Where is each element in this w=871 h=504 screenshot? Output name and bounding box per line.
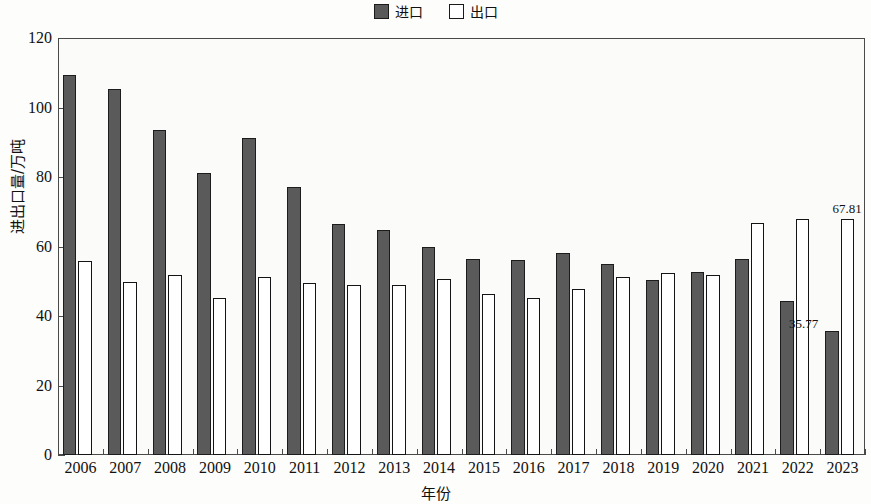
x-tick-label: 2007: [101, 460, 149, 476]
y-tick-label: 40: [6, 308, 52, 324]
x-tick-mark: [372, 449, 373, 455]
bar-export: [347, 285, 361, 455]
bar-export: [213, 298, 227, 455]
bar-import: [691, 272, 705, 455]
x-tick-mark: [551, 449, 552, 455]
bar-import: [377, 230, 391, 455]
bar-import: [287, 187, 301, 455]
x-tick-mark: [865, 449, 866, 455]
bar-value-label: 67.81: [833, 202, 862, 215]
bar-import: [63, 75, 77, 455]
bar-export: [168, 275, 182, 455]
x-tick-label: 2015: [460, 460, 508, 476]
filled-square-icon: [374, 4, 389, 19]
bar-import: [422, 247, 436, 455]
x-tick-mark: [775, 449, 776, 455]
bar-import: [108, 89, 122, 455]
x-tick-label: 2006: [56, 460, 104, 476]
bar-export: [258, 277, 272, 455]
bar-export: [841, 219, 855, 455]
legend-entry-import: 进口: [374, 4, 423, 19]
x-tick-mark: [58, 449, 59, 455]
x-tick-label: 2012: [325, 460, 373, 476]
x-tick-label: 2021: [729, 460, 777, 476]
x-tick-label: 2023: [819, 460, 867, 476]
bar-export: [392, 285, 406, 455]
x-tick-label: 2008: [146, 460, 194, 476]
x-tick-label: 2020: [684, 460, 732, 476]
x-tick-mark: [103, 449, 104, 455]
x-tick-mark: [148, 449, 149, 455]
x-tick-mark: [462, 449, 463, 455]
bar-export: [706, 275, 720, 455]
x-tick-mark: [596, 449, 597, 455]
bar-export: [437, 279, 451, 455]
x-tick-label: 2010: [236, 460, 284, 476]
y-tick-label: 0: [6, 447, 52, 463]
bar-export: [482, 294, 496, 455]
y-tick-label: 20: [6, 378, 52, 394]
hollow-square-icon: [449, 4, 464, 19]
bar-chart: 进口 出口 进出口量/万吨 年份 020406080100120 2006200…: [0, 0, 871, 504]
bar-export: [572, 289, 586, 455]
bar-export: [78, 261, 92, 455]
y-tick-label: 100: [6, 100, 52, 116]
x-tick-mark: [193, 449, 194, 455]
x-tick-mark: [282, 449, 283, 455]
bar-import: [601, 264, 615, 455]
x-tick-label: 2018: [594, 460, 642, 476]
bar-export: [527, 298, 541, 455]
y-tick-label: 120: [6, 30, 52, 46]
x-tick-mark: [820, 449, 821, 455]
bar-import: [153, 130, 167, 455]
bar-export: [616, 277, 630, 455]
x-tick-label: 2013: [370, 460, 418, 476]
bar-export: [123, 282, 137, 455]
bar-import: [735, 259, 749, 455]
bar-export: [661, 273, 675, 455]
bar-import: [332, 224, 346, 455]
x-tick-mark: [686, 449, 687, 455]
y-tick-mark: [58, 455, 65, 456]
bar-export: [796, 219, 810, 455]
x-tick-label: 2017: [550, 460, 598, 476]
bar-import: [511, 260, 525, 455]
bar-import: [466, 259, 480, 455]
bar-import: [242, 138, 256, 455]
bar-value-label: 35.77: [789, 317, 818, 330]
chart-legend: 进口 出口: [0, 4, 871, 19]
y-tick-label: 80: [6, 169, 52, 185]
legend-label-export: 出口: [470, 5, 498, 19]
x-tick-mark: [417, 449, 418, 455]
bar-import: [825, 331, 839, 455]
x-tick-mark: [731, 449, 732, 455]
x-tick-label: 2014: [415, 460, 463, 476]
x-tick-label: 2009: [191, 460, 239, 476]
bar-export: [751, 223, 765, 455]
x-tick-label: 2011: [281, 460, 329, 476]
x-tick-mark: [237, 449, 238, 455]
x-tick-mark: [327, 449, 328, 455]
x-tick-mark: [641, 449, 642, 455]
legend-label-import: 进口: [395, 5, 423, 19]
bar-export: [303, 283, 317, 455]
x-axis-title: 年份: [0, 482, 871, 503]
bar-import: [646, 280, 660, 455]
x-tick-label: 2016: [505, 460, 553, 476]
y-tick-label: 60: [6, 239, 52, 255]
y-tick-mark: [58, 38, 65, 39]
bar-import: [197, 173, 211, 455]
bar-import: [556, 253, 570, 455]
x-tick-label: 2019: [639, 460, 687, 476]
x-tick-mark: [506, 449, 507, 455]
legend-entry-export: 出口: [449, 4, 498, 19]
x-tick-label: 2022: [774, 460, 822, 476]
